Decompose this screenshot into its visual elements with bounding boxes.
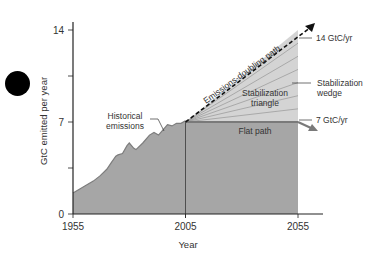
flat-value-label: 7 GtC/yr [316,115,348,125]
x-tick-label: 1955 [62,221,85,232]
top-value-label: 14 GtC/yr [316,33,353,43]
historical-label: Historical [108,111,143,121]
historical-emissions-area [73,121,186,214]
triangle-label: triangle [251,98,279,108]
wedge-label: Stabilization [317,78,363,88]
triangle-label: Stabilization [242,88,288,98]
x-axis-title: Year [178,239,197,250]
historical-leader-line [150,119,164,131]
flat-path-arrow-line [298,122,311,128]
chart: 0714195520052055 HistoricalemissionsEmis… [0,0,389,261]
wedge-label: wedge [316,88,342,98]
y-tick-label: 14 [53,25,65,36]
flat-path-label: Flat path [238,126,271,136]
x-tick-label: 2005 [174,221,197,232]
y-axis-title: GtC emitted per year [38,77,49,165]
historical-label: emissions [106,121,144,131]
y-tick-label: 7 [58,117,64,128]
x-tick-label: 2055 [287,221,310,232]
y-tick-label: 0 [58,209,64,220]
